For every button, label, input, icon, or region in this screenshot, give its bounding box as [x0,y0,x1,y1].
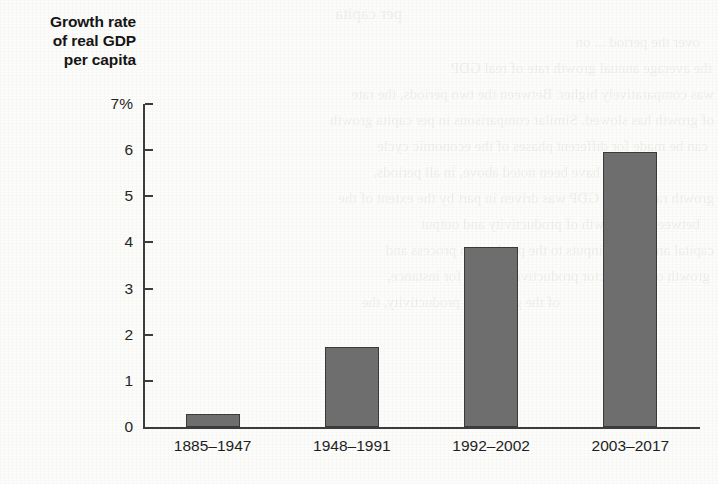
plot-area: 01234567% 1885–19471948–19911992–2002200… [143,104,700,427]
y-axis-tick-label: 6 [124,142,133,158]
bar-chart: Growth rate of real GDP per capita 01234… [0,0,718,484]
y-axis-title-line: per capita [6,50,136,69]
y-axis-tick-mark [145,103,153,105]
y-axis-tick-label: 0 [124,419,133,435]
x-axis-tick-label: 1885–1947 [174,438,252,454]
y-axis-tick-label: 7% [111,96,133,112]
y-axis-title-line: Growth rate [6,12,136,31]
y-axis-tick-label: 1 [124,373,133,389]
bar [603,152,657,427]
y-axis-title-line: of real GDP [6,31,136,50]
x-axis-tick-label: 1992–2002 [452,438,530,454]
bar [325,347,379,427]
y-axis-tick-mark [145,380,153,382]
y-axis-tick-label: 3 [124,281,133,297]
bar [464,247,518,427]
y-axis-tick-mark [145,241,153,243]
scanned-page: per capita over the period ... on the av… [0,0,718,484]
x-axis-line [143,427,700,429]
y-axis-tick-mark [145,334,153,336]
y-axis-title: Growth rate of real GDP per capita [6,12,136,69]
y-axis-tick-label: 4 [124,235,133,251]
y-axis-tick-label: 5 [124,189,133,205]
y-axis-tick-mark [145,195,153,197]
x-axis-tick-label: 1948–1991 [313,438,391,454]
x-axis-tick-label: 2003–2017 [592,438,670,454]
y-axis-tick-mark [145,288,153,290]
y-axis-tick-label: 2 [124,327,133,343]
bar [186,414,240,427]
y-axis-tick-mark [145,149,153,151]
